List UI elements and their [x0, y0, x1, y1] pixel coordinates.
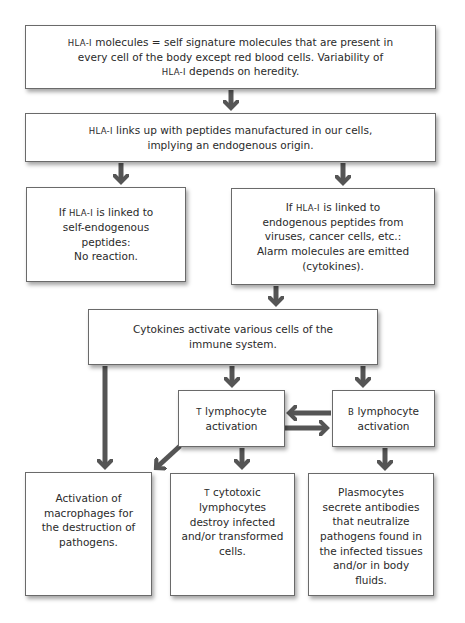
- node-plasmocytes: Plasmocytes secrete antibodies that neut…: [308, 473, 434, 596]
- hla-label: HLA-I: [69, 208, 93, 218]
- hla-label: HLA-I: [296, 203, 320, 213]
- node-t-activation: T lymphocyte activation: [178, 390, 285, 447]
- hla-label: HLA-I: [68, 38, 92, 48]
- node-self-peptides: If HLA-I is linked to self-endogenous pe…: [26, 187, 186, 282]
- node-foreign-peptides: If HLA-I is linked to endogenous peptide…: [231, 188, 435, 285]
- arrow-t-to-macrophages: [156, 446, 180, 468]
- hla-label: HLA-I: [89, 126, 113, 136]
- node-b-activation: B lymphocyte activation: [332, 390, 435, 447]
- hla-label: HLA-I: [162, 67, 186, 77]
- node-t-cytotoxic: T cytotoxic lymphocytes destroy infected…: [170, 473, 295, 596]
- node-hla-links: HLA-I links up with peptides manufacture…: [25, 113, 436, 162]
- node-macrophages: Activation of macrophages for the destru…: [25, 472, 152, 596]
- node-hla-definition: HLA-I molecules = self signature molecul…: [25, 25, 436, 89]
- node-cytokines: Cytokines activate various cells of the …: [88, 309, 378, 365]
